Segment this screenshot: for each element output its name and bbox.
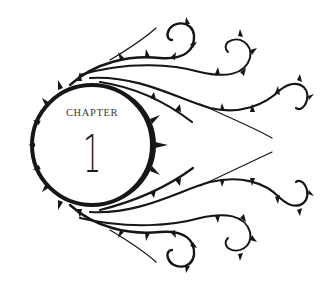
chapter-number: 1	[63, 124, 120, 184]
thorn-vine-ornament	[0, 0, 330, 292]
chapter-label: CHAPTER	[40, 107, 144, 118]
